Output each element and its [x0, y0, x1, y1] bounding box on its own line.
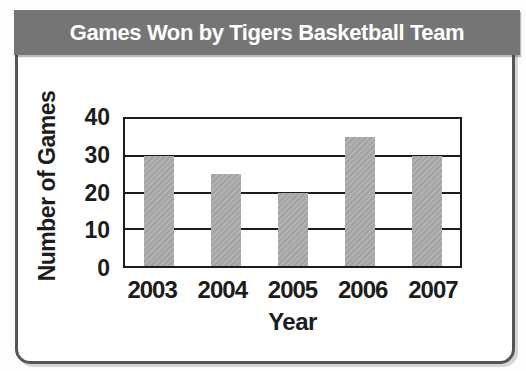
y-tick-label-10: 10 — [84, 219, 110, 242]
bar-2007 — [412, 156, 442, 266]
x-axis-title: Year — [123, 308, 462, 336]
y-tick-label-0: 0 — [97, 257, 110, 280]
x-tick-label-2004: 2004 — [187, 276, 257, 304]
bar-slot-2006 — [326, 119, 393, 266]
chart-title: Games Won by Tigers Basketball Team — [70, 20, 464, 46]
bar-2003 — [144, 156, 174, 266]
x-tick-label-2003: 2003 — [117, 276, 187, 304]
x-axis-labels: 20032004200520062007 — [117, 276, 468, 304]
y-tick-label-40: 40 — [84, 106, 110, 129]
x-tick-label-2006: 2006 — [328, 276, 398, 304]
x-tick-label-2007: 2007 — [398, 276, 468, 304]
bar-2006 — [345, 137, 375, 266]
bar-slot-2004 — [192, 119, 259, 266]
bar-slot-2003 — [125, 119, 192, 266]
y-tick-label-30: 30 — [84, 143, 110, 166]
y-tick-label-20: 20 — [84, 181, 110, 204]
bar-slot-2005 — [259, 119, 326, 266]
y-axis-title: Number of Games — [34, 91, 61, 282]
x-tick-label-2005: 2005 — [257, 276, 327, 304]
bar-slot-2007 — [393, 119, 460, 266]
bar-2005 — [278, 193, 308, 267]
y-axis-ticks: 010203040 — [68, 117, 116, 268]
bar-row — [125, 119, 460, 266]
plot-area — [123, 117, 462, 268]
chart-title-banner: Games Won by Tigers Basketball Team — [14, 10, 520, 55]
bar-2004 — [211, 174, 241, 266]
